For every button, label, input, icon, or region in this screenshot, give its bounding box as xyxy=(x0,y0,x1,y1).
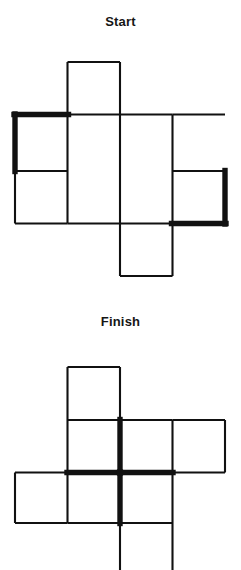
finish-puzzle-panel: Finish xyxy=(0,300,241,570)
start-puzzle-panel: Start xyxy=(0,0,241,300)
finish-matchstick-board xyxy=(0,300,241,570)
start-matchstick-board xyxy=(0,0,241,300)
start-board-svg xyxy=(0,0,241,300)
finish-board-svg xyxy=(0,300,241,570)
